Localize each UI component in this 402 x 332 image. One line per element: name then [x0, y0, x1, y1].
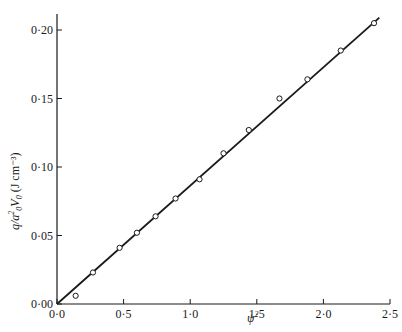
data-point — [197, 177, 202, 182]
x-tick-label: 2·5 — [382, 307, 398, 321]
data-point — [173, 196, 178, 201]
y-tick-label: 0·20 — [31, 23, 53, 37]
y-tick-label: 0·10 — [31, 160, 53, 174]
data-point — [117, 245, 122, 250]
data-point — [246, 127, 251, 132]
ticks: 0·00·51·01·52·02·50·000·050·100·150·20 — [31, 23, 398, 321]
data-point — [90, 270, 95, 275]
x-axis-label: ψ2 — [247, 310, 258, 325]
data-point — [371, 21, 376, 26]
y-tick-label: 0·15 — [31, 92, 53, 106]
chart: 0·00·51·01·52·02·50·000·050·100·150·20 ψ… — [0, 0, 402, 332]
data-point — [153, 214, 158, 219]
y-tick-label: 0·05 — [31, 229, 53, 243]
y-axis-label: q/a20V0 (J cm⁻³) — [7, 152, 24, 230]
data-points — [73, 21, 377, 299]
fit-line — [57, 18, 379, 304]
data-point — [338, 48, 343, 53]
data-point — [277, 96, 282, 101]
data-point — [305, 77, 310, 82]
fit-line-path — [57, 18, 379, 304]
x-tick-label: 0·5 — [116, 307, 132, 321]
y-tick-label: 0·00 — [31, 297, 53, 311]
data-point — [221, 151, 226, 156]
data-point — [73, 293, 78, 298]
data-point — [134, 230, 139, 235]
x-tick-label: 2·0 — [315, 307, 331, 321]
x-tick-label: 1·0 — [182, 307, 198, 321]
